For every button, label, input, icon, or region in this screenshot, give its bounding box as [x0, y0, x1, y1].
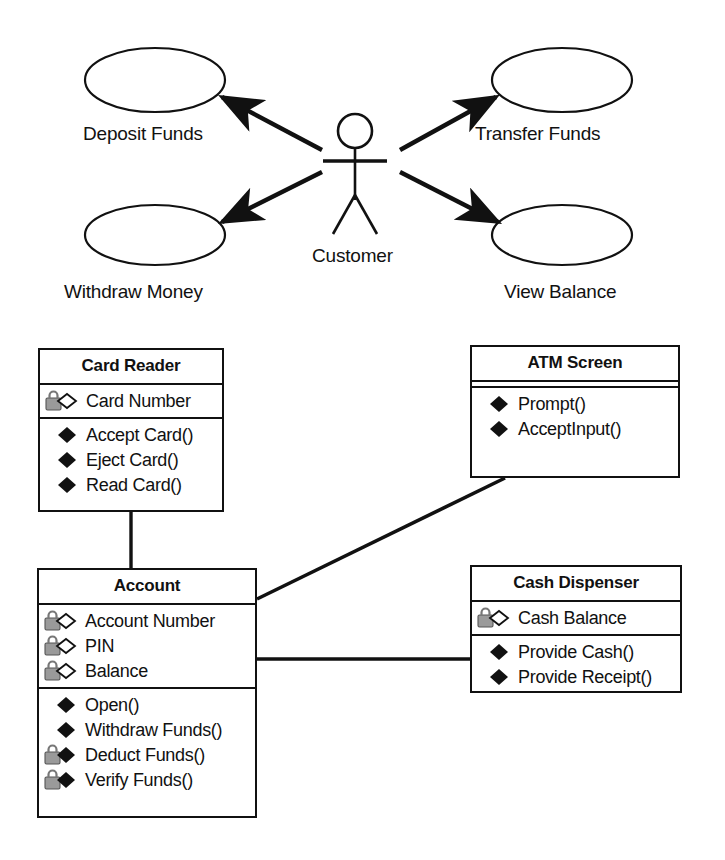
- method-row[interactable]: Verify Funds(): [43, 767, 251, 792]
- lock-diamond-hollow-icon: [43, 660, 85, 682]
- attribute-label: Cash Balance: [518, 609, 626, 627]
- use-case-oval-view-balance[interactable]: [492, 205, 632, 265]
- method-label: Withdraw Funds(): [85, 721, 222, 739]
- method-label: Accept Card(): [86, 426, 193, 444]
- class-box-cash-dispenser[interactable]: Cash Dispenser Cash Balance: [470, 565, 682, 693]
- methods-compartment-atm-screen: Prompt() AcceptInput(): [472, 388, 678, 445]
- attribute-row[interactable]: Account Number: [43, 608, 251, 633]
- use-case-oval-withdraw-money[interactable]: [85, 205, 225, 265]
- method-label: Provide Cash(): [518, 643, 634, 661]
- method-label: Verify Funds(): [85, 771, 193, 789]
- diamond-filled-icon: [488, 418, 518, 440]
- method-row[interactable]: Withdraw Funds(): [43, 717, 251, 742]
- lock-diamond-hollow-icon: [44, 390, 86, 412]
- association-actor-to-transfer-funds: [400, 97, 496, 150]
- diamond-filled-icon: [488, 641, 518, 663]
- method-label: AcceptInput(): [518, 420, 621, 438]
- lock-diamond-filled-icon: [43, 769, 85, 791]
- use-case-oval-deposit-funds[interactable]: [85, 48, 225, 112]
- method-label: Deduct Funds(): [85, 746, 205, 764]
- method-row[interactable]: Read Card(): [44, 472, 218, 497]
- diamond-filled-icon: [488, 393, 518, 415]
- class-box-card-reader[interactable]: Card Reader Card Number: [38, 348, 224, 512]
- attribute-label: Account Number: [85, 612, 215, 630]
- method-row[interactable]: Prompt(): [476, 391, 674, 416]
- lock-diamond-hollow-icon: [43, 610, 85, 632]
- attribute-row[interactable]: Cash Balance: [476, 605, 676, 630]
- association-actor-to-deposit-funds: [222, 97, 322, 150]
- actor-icon[interactable]: [323, 114, 387, 234]
- attribute-label: Card Number: [86, 392, 191, 410]
- attributes-compartment-card-reader: Card Number: [40, 385, 222, 419]
- diamond-filled-icon: [56, 424, 86, 446]
- method-row[interactable]: Accept Card(): [44, 422, 218, 447]
- attribute-row[interactable]: Card Number: [44, 388, 218, 413]
- diamond-filled-icon: [43, 694, 85, 716]
- class-box-account[interactable]: Account Account Number: [37, 568, 257, 818]
- methods-compartment-card-reader: Accept Card() Eject Card() Read Card(): [40, 419, 222, 501]
- diamond-filled-icon: [488, 666, 518, 688]
- method-row[interactable]: Open(): [43, 692, 251, 717]
- lock-diamond-hollow-icon: [476, 607, 518, 629]
- lock-diamond-filled-icon: [43, 744, 85, 766]
- lock-diamond-hollow-icon: [43, 635, 85, 657]
- class-name-atm-screen: ATM Screen: [472, 347, 678, 382]
- method-label: Read Card(): [86, 476, 182, 494]
- methods-compartment-cash-dispenser: Provide Cash() Provide Receipt(): [472, 636, 680, 693]
- class-box-atm-screen[interactable]: ATM Screen Prompt() AcceptInput(): [470, 345, 680, 478]
- association-actor-to-withdraw-money: [222, 172, 322, 222]
- method-row[interactable]: Deduct Funds(): [43, 742, 251, 767]
- method-row[interactable]: Provide Receipt(): [476, 664, 676, 689]
- method-label: Eject Card(): [86, 451, 178, 469]
- method-label: Open(): [85, 696, 139, 714]
- attribute-row[interactable]: Balance: [43, 658, 251, 683]
- methods-compartment-account: Open() Withdraw Funds(): [39, 689, 255, 796]
- attributes-compartment-cash-dispenser: Cash Balance: [472, 602, 680, 636]
- uml-diagram-canvas: Deposit Funds Transfer Funds Withdraw Mo…: [0, 0, 725, 860]
- class-name-cash-dispenser: Cash Dispenser: [472, 567, 680, 602]
- attribute-label: PIN: [85, 637, 114, 655]
- association-account-to-atm-screen: [257, 478, 505, 599]
- attribute-row[interactable]: PIN: [43, 633, 251, 658]
- attribute-label: Balance: [85, 662, 148, 680]
- diamond-filled-icon: [56, 449, 86, 471]
- attributes-compartment-account: Account Number PIN: [39, 605, 255, 689]
- class-name-card-reader: Card Reader: [40, 350, 222, 385]
- diamond-filled-icon: [56, 474, 86, 496]
- method-row[interactable]: AcceptInput(): [476, 416, 674, 441]
- association-actor-to-view-balance: [400, 172, 498, 222]
- diamond-filled-icon: [43, 719, 85, 741]
- method-label: Prompt(): [518, 395, 586, 413]
- use-case-diagram: [0, 0, 725, 330]
- use-case-oval-transfer-funds[interactable]: [492, 48, 632, 112]
- class-name-account: Account: [39, 570, 255, 605]
- method-label: Provide Receipt(): [518, 668, 652, 686]
- method-row[interactable]: Eject Card(): [44, 447, 218, 472]
- method-row[interactable]: Provide Cash(): [476, 639, 676, 664]
